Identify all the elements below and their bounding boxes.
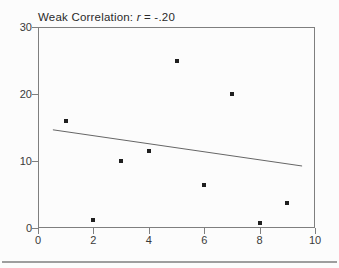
regression-line	[53, 130, 302, 166]
data-point	[119, 159, 123, 163]
data-point	[175, 59, 179, 63]
data-point	[91, 218, 95, 222]
x-tick-label: 10	[303, 234, 327, 246]
y-tick-mark	[32, 161, 38, 162]
x-tick-label: 0	[26, 234, 50, 246]
x-tick-label: 6	[192, 234, 216, 246]
chart-title-text: Weak Correlation:	[38, 11, 137, 23]
y-tick-mark	[32, 27, 38, 28]
correlation-value: = -.20	[141, 11, 175, 23]
data-point	[202, 183, 206, 187]
data-point	[230, 92, 234, 96]
y-tick-label: 30	[6, 21, 32, 33]
data-point	[64, 119, 68, 123]
y-tick-label: 20	[6, 88, 32, 100]
data-point	[147, 149, 151, 153]
y-tick-label: 10	[6, 155, 32, 167]
data-point	[285, 201, 289, 205]
plot-area	[38, 27, 315, 228]
x-tick-label: 4	[137, 234, 161, 246]
data-point	[258, 221, 262, 225]
page-divider-line	[2, 261, 337, 263]
chart-title: Weak Correlation: r = -.20	[38, 11, 175, 23]
scatter-plot-figure: Weak Correlation: r = -.20 0102030 02468…	[0, 0, 339, 268]
y-tick-mark	[32, 94, 38, 95]
x-tick-label: 8	[248, 234, 272, 246]
x-tick-label: 2	[81, 234, 105, 246]
y-tick-label: 0	[6, 222, 32, 234]
